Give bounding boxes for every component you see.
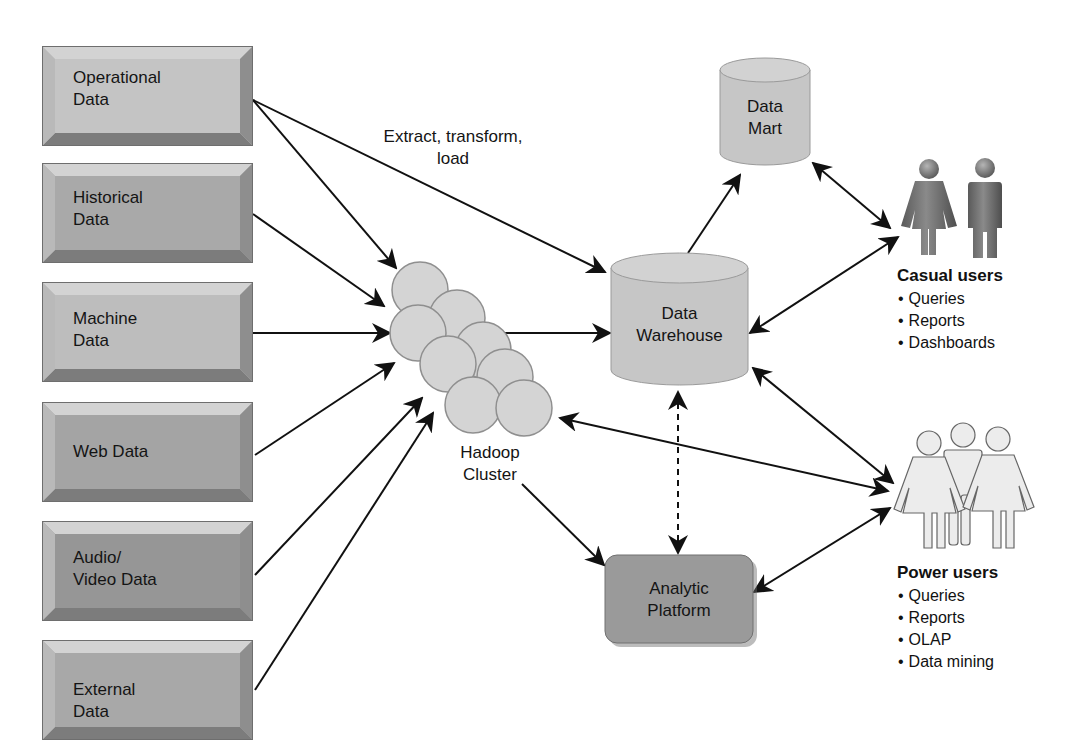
casual-user-item: Dashboards xyxy=(898,332,995,354)
power-users-title: Power users xyxy=(897,563,998,583)
arrows-sources xyxy=(253,100,605,690)
data-warehouse-label: Data Warehouse xyxy=(611,303,748,347)
source-label: Web Data xyxy=(73,441,148,463)
bevel xyxy=(43,369,252,381)
power-user-item: OLAP xyxy=(898,629,994,651)
casual-users-list: Queries Reports Dashboards xyxy=(898,288,995,354)
source-box-operational-data[interactable]: Operational Data xyxy=(42,46,253,146)
etl-label: Extract, transform, load xyxy=(358,126,548,170)
bevel xyxy=(43,47,55,145)
power-users-icon xyxy=(894,423,1034,548)
source-label: External Data xyxy=(73,679,135,723)
arrow-web-to-hadoop xyxy=(255,363,394,455)
arrow-mart-casual xyxy=(813,163,890,228)
arrow-hadoop-power xyxy=(560,418,888,491)
source-box-web-data[interactable]: Web Data xyxy=(42,402,253,502)
hadoop-cluster-icon xyxy=(390,262,552,436)
analytic-platform-label: Analytic Platform xyxy=(605,578,753,622)
power-users-list: Queries Reports OLAP Data mining xyxy=(898,585,994,673)
source-box-external-data[interactable]: External Data xyxy=(42,640,253,740)
bevel xyxy=(240,522,252,620)
bevel xyxy=(43,283,252,295)
data-mart-label: Data Mart xyxy=(720,96,810,140)
arrow-audio-to-hadoop xyxy=(255,398,422,575)
bevel xyxy=(240,403,252,501)
bevel xyxy=(43,727,252,739)
arrow-warehouse-casual xyxy=(750,237,898,333)
bevel xyxy=(43,250,252,262)
bevel xyxy=(43,47,252,59)
bevel xyxy=(240,47,252,145)
bevel xyxy=(43,522,55,620)
arrow-platform-power xyxy=(754,508,890,592)
bevel xyxy=(43,164,252,176)
source-label: Machine Data xyxy=(73,308,137,352)
source-label: Historical Data xyxy=(73,187,143,231)
source-label: Audio/ Video Data xyxy=(73,547,157,591)
source-box-audio-video-data[interactable]: Audio/ Video Data xyxy=(42,521,253,621)
arrow-historical-to-hadoop xyxy=(253,214,384,306)
bevel xyxy=(43,641,252,653)
bevel xyxy=(240,641,252,739)
bevel xyxy=(43,641,55,739)
casual-users-icon xyxy=(901,158,1002,258)
arrow-external-to-hadoop xyxy=(255,413,433,690)
bevel xyxy=(240,283,252,381)
bevel xyxy=(43,522,252,534)
arrow-hadoop-to-platform xyxy=(522,484,604,565)
source-label: Operational Data xyxy=(73,67,161,111)
power-user-item: Data mining xyxy=(898,651,994,673)
bevel xyxy=(43,489,252,501)
bevel xyxy=(43,403,55,501)
source-box-historical-data[interactable]: Historical Data xyxy=(42,163,253,263)
casual-user-item: Queries xyxy=(898,288,995,310)
bevel xyxy=(43,164,55,262)
bevel xyxy=(43,133,252,145)
bevel xyxy=(43,608,252,620)
arrow-warehouse-to-mart xyxy=(688,175,740,253)
bevel xyxy=(240,164,252,262)
source-box-machine-data[interactable]: Machine Data xyxy=(42,282,253,382)
bevel xyxy=(43,283,55,381)
power-user-item: Queries xyxy=(898,585,994,607)
bevel xyxy=(43,403,252,415)
casual-user-item: Reports xyxy=(898,310,995,332)
casual-users-title: Casual users xyxy=(897,266,1003,286)
hadoop-cluster-label: Hadoop Cluster xyxy=(440,442,540,486)
power-user-item: Reports xyxy=(898,607,994,629)
